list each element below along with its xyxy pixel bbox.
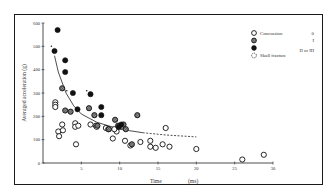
hatched-circle-point: [63, 108, 68, 113]
open-circle-point: [122, 138, 127, 143]
open-circle-point: [261, 152, 266, 157]
open-circle-point: [194, 146, 199, 151]
y-tick-label: 0: [38, 161, 41, 166]
axis-labels: Time(ms)Averaged acceleration (g): [21, 64, 198, 185]
x-tick-label: 5: [80, 166, 83, 171]
y-tick-label: 300: [33, 91, 41, 96]
hatched-circle-point: [92, 113, 97, 118]
dotted-circle-legend-icon: [252, 53, 257, 58]
legend-label: Skull fracture: [260, 53, 286, 58]
open-circle-point: [76, 123, 81, 128]
hatched-circle-legend-icon: [252, 38, 257, 43]
curve-dashed: [143, 133, 197, 137]
filled-circle-point: [99, 113, 104, 118]
open-circle-point: [240, 157, 245, 162]
skull-fracture-mark: [66, 90, 68, 92]
open-circle-point: [60, 128, 65, 133]
scatter-chart: 510152025300100200300400500600 Concussio…: [0, 0, 331, 196]
legend-label: Concussion: [260, 31, 283, 36]
open-circle-point: [148, 138, 153, 143]
hatched-circle-point: [123, 127, 128, 132]
filled-circle-point: [63, 69, 68, 74]
x-axis-label-time: Time: [150, 178, 162, 184]
legend-grade: 0: [312, 31, 315, 36]
open-circle-point: [160, 142, 165, 147]
legend-grade: I: [312, 38, 314, 43]
y-tick-label: 200: [33, 114, 41, 119]
y-tick-label: 100: [33, 137, 41, 142]
open-circle-point: [88, 122, 93, 127]
open-circle-point: [167, 144, 172, 149]
y-axis-label: Averaged acceleration (g): [21, 64, 28, 122]
curve-solid: [55, 56, 143, 133]
x-tick-label: 30: [271, 166, 276, 171]
filled-circle-point: [75, 107, 80, 112]
filled-circle-point: [99, 104, 104, 109]
hatched-circle-point: [106, 127, 111, 132]
filled-circle-point: [119, 122, 124, 127]
x-tick-label: 20: [194, 166, 199, 171]
y-tick-label: 500: [33, 44, 41, 49]
filled-circle-point: [88, 92, 93, 97]
y-tick-label: 600: [33, 21, 41, 26]
hatched-circle-point: [135, 113, 140, 118]
filled-circle-point: [70, 90, 75, 95]
data-points: [51, 27, 267, 162]
x-tick-label: 15: [156, 166, 161, 171]
hatched-circle-point: [113, 117, 118, 122]
open-circle-point: [53, 104, 58, 109]
skull-fracture-mark: [86, 90, 88, 92]
hatched-circle-point: [86, 106, 91, 111]
x-axis-label-unit: (ms): [188, 178, 198, 185]
y-tick-label: 400: [33, 67, 41, 72]
open-circle-legend-icon: [252, 31, 257, 36]
hatched-circle-point: [129, 142, 134, 147]
legend: Concussion0III or IIISkull fracture: [252, 31, 315, 59]
skull-fracture-mark: [51, 46, 53, 48]
open-circle-point: [148, 144, 153, 149]
x-tick-label: 25: [232, 166, 237, 171]
hatched-circle-point: [95, 123, 100, 128]
filled-circle-point: [55, 27, 60, 32]
open-circle-point: [73, 142, 78, 147]
filled-circle-point: [52, 48, 57, 53]
open-circle-point: [163, 125, 168, 130]
open-circle-point: [60, 122, 65, 127]
open-circle-point: [138, 139, 143, 144]
x-tick-label: 10: [117, 166, 122, 171]
hatched-circle-point: [60, 86, 65, 91]
open-circle-point: [153, 145, 158, 150]
legend-grade: II or III: [300, 48, 315, 53]
filled-circle-point: [63, 58, 68, 63]
hatched-circle-point: [68, 109, 73, 114]
filled-circle-legend-icon: [252, 46, 257, 51]
open-circle-point: [110, 136, 115, 141]
open-circle-point: [57, 134, 62, 139]
